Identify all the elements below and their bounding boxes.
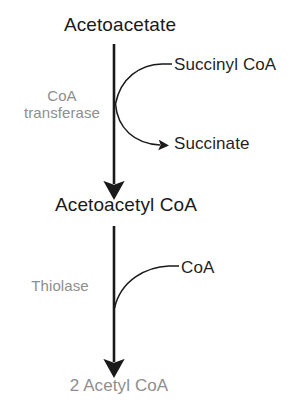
enzyme-coa-transferase-line1: CoA <box>47 87 76 104</box>
curve-succinate-out <box>116 104 161 145</box>
pathway-diagram: Acetoacetate CoA transferase Succinyl Co… <box>0 0 294 415</box>
node-acetoacetyl-coa: Acetoacetyl CoA <box>0 194 252 215</box>
cosubstrate-succinate: Succinate <box>174 134 250 153</box>
cosubstrate-coa: CoA <box>181 258 214 277</box>
curve-succinyl-coa-in <box>116 64 173 104</box>
node-acetoacetate: Acetoacetate <box>0 14 240 35</box>
node-acetyl-coa: 2 Acetyl CoA <box>0 376 238 395</box>
enzyme-thiolase: Thiolase <box>14 278 106 295</box>
enzyme-coa-transferase: CoA transferase <box>14 88 110 122</box>
cosubstrate-succinyl-coa: Succinyl CoA <box>174 55 276 74</box>
enzyme-coa-transferase-line2: transferase <box>24 104 100 121</box>
curve-coa-in <box>115 266 180 308</box>
